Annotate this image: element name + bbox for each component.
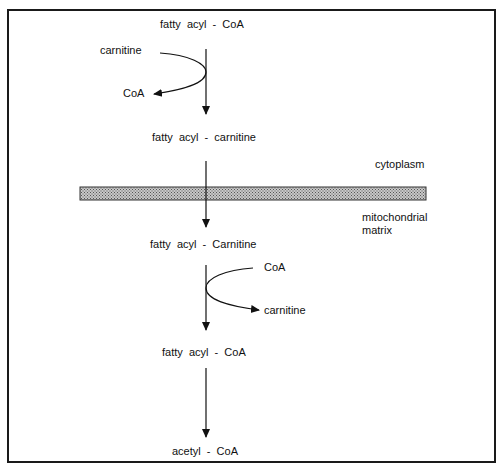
side-label-carnitine-out: carnitine: [264, 304, 306, 317]
side-label-coa-out: CoA: [123, 87, 144, 100]
pathway-graphics: [0, 0, 504, 472]
compartment-label-mitochondrial: mitochondrial: [362, 211, 427, 224]
curved-arrow-coa-to-carnitine: [206, 268, 259, 310]
compartment-label-cytoplasm: cytoplasm: [375, 158, 425, 171]
node-fatty-acyl-coa-top: fatty acyl - CoA: [160, 18, 244, 31]
node-fatty-acyl-coa-matrix: fatty acyl - CoA: [162, 346, 246, 359]
node-fatty-acyl-carnitine-matrix: fatty acyl - Carnitine: [150, 238, 256, 251]
node-fatty-acyl-carnitine: fatty acyl - carnitine: [152, 131, 256, 144]
curved-arrow-carnitine-to-coa: [154, 53, 206, 94]
mitochondrial-membrane: [80, 187, 426, 200]
side-label-carnitine-in: carnitine: [100, 44, 142, 57]
side-label-coa-in: CoA: [264, 261, 285, 274]
compartment-label-matrix: matrix: [362, 224, 392, 237]
node-acetyl-coa: acetyl - CoA: [172, 445, 238, 458]
